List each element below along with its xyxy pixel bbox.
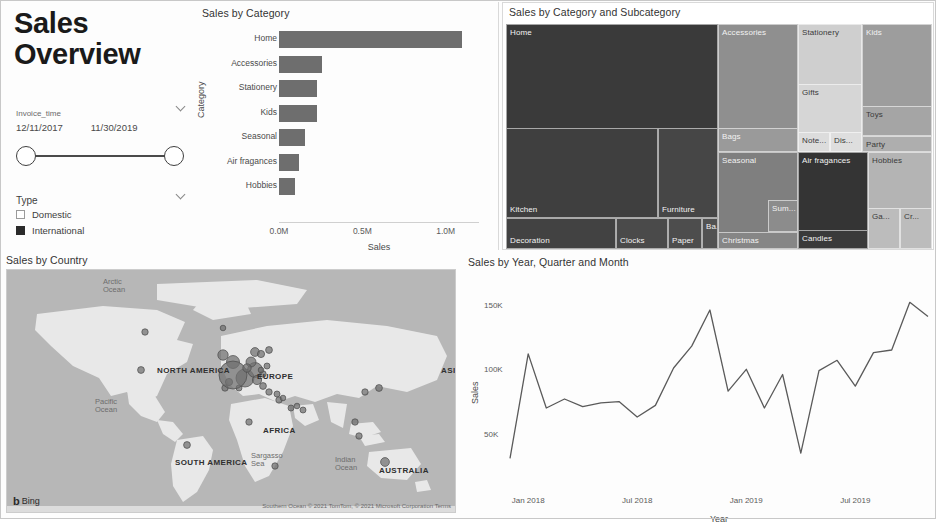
date-slider-handle-right[interactable]: [164, 146, 184, 166]
map-bubble[interactable]: [356, 433, 362, 439]
bar-row[interactable]: Hobbies: [198, 175, 498, 200]
type-option-label: International: [32, 225, 84, 236]
treemap-node[interactable]: Ga...: [868, 208, 900, 249]
bar-chart-plot: Category HomeAccessoriesStationeryKidsSe…: [198, 26, 498, 226]
map-viewport[interactable]: Arctic OceanNORTH AMERICAPacific OceanSa…: [6, 269, 456, 513]
date-start-value[interactable]: 12/11/2017: [16, 122, 88, 133]
map-attribution: Southern Ocean © 2021 TomTom, © 2021 Mic…: [262, 503, 451, 509]
bar-rect[interactable]: [279, 31, 462, 48]
treemap-node[interactable]: Note...: [798, 132, 830, 152]
bar-rect[interactable]: [279, 178, 295, 195]
map-bubble[interactable]: [266, 347, 273, 354]
treemap-node-label: Gifts: [802, 88, 819, 97]
line-y-tick: 50K: [484, 429, 498, 438]
type-slicer[interactable]: Type DomesticInternational: [16, 190, 188, 236]
bar-category-label: Accessories: [231, 58, 277, 68]
map-bubble[interactable]: [243, 364, 251, 372]
chevron-down-icon[interactable]: [177, 191, 186, 197]
bar-row[interactable]: Stationery: [198, 77, 498, 102]
map-bubble[interactable]: [280, 395, 286, 401]
map-bubble[interactable]: [300, 407, 306, 413]
map-bubble[interactable]: [288, 405, 294, 411]
map-bubble[interactable]: [381, 458, 390, 467]
treemap-node[interactable]: Bags: [718, 128, 798, 152]
map-bubble[interactable]: [257, 350, 264, 357]
map-bubble[interactable]: [352, 419, 358, 425]
treemap-node-label: Furniture: [662, 205, 695, 214]
treemap-node[interactable]: Sum...: [768, 200, 798, 232]
bar-row[interactable]: Air fragances: [198, 151, 498, 176]
date-slider-track[interactable]: [16, 144, 184, 168]
type-option-international[interactable]: International: [16, 225, 188, 236]
map-bubble[interactable]: [252, 375, 261, 384]
type-option-domestic[interactable]: Domestic: [16, 209, 188, 220]
map-bubble[interactable]: [258, 367, 264, 373]
treemap-node[interactable]: Party: [862, 136, 932, 152]
treemap-node-label: Ga...: [872, 212, 890, 221]
bar-row[interactable]: Accessories: [198, 53, 498, 78]
map-bubble[interactable]: [266, 389, 272, 395]
line-path: [510, 302, 928, 458]
map-bubble[interactable]: [138, 367, 145, 374]
treemap-node-label: Toys: [866, 110, 883, 119]
map-bubble[interactable]: [142, 329, 148, 335]
treemap-node[interactable]: Toys: [862, 106, 932, 136]
date-range-slicer[interactable]: Invoice_time 12/11/2017 11/30/2019: [16, 102, 188, 168]
treemap-node[interactable]: Furniture: [658, 128, 718, 218]
panel-divider-vertical: [498, 2, 499, 250]
treemap-node[interactable]: Christmas: [718, 232, 798, 249]
date-end-value[interactable]: 11/30/2019: [91, 122, 138, 133]
treemap-node-label: Home: [510, 28, 532, 37]
bar-rect[interactable]: [279, 80, 317, 97]
line-chart-title: Sales by Year, Quarter and Month: [468, 256, 629, 268]
bing-logo[interactable]: b Bing: [13, 495, 40, 507]
map-bubble[interactable]: [274, 391, 280, 397]
treemap-node[interactable]: Ba...: [702, 218, 718, 249]
bar-x-tick: 1.0M: [436, 226, 455, 236]
map-bubble[interactable]: [272, 463, 278, 469]
treemap-node-label: Note...: [802, 136, 826, 145]
treemap-node-label: Cr...: [904, 212, 919, 221]
bar-row[interactable]: Home: [198, 28, 498, 53]
line-y-axis-title: Sales: [470, 381, 480, 404]
treemap-node[interactable]: Kitchen: [506, 128, 658, 218]
map-bubble[interactable]: [246, 419, 252, 425]
treemap-node[interactable]: Decoration: [506, 218, 616, 249]
checkbox-icon[interactable]: [16, 210, 25, 219]
treemap-node-label: Hobbies: [872, 156, 902, 165]
map-bubble[interactable]: [184, 442, 191, 449]
treemap-node[interactable]: Paper: [668, 218, 702, 249]
type-option-list: DomesticInternational: [16, 209, 188, 236]
bar-rect[interactable]: [279, 105, 317, 122]
map-bubble[interactable]: [219, 361, 247, 389]
bar-row[interactable]: Seasonal: [198, 126, 498, 151]
map-bubble[interactable]: [220, 325, 226, 331]
treemap-node[interactable]: Clocks: [616, 218, 668, 249]
date-slider-line: [28, 155, 172, 157]
bar-row[interactable]: Kids: [198, 102, 498, 127]
date-slicer-field-label: Invoice_time: [16, 109, 61, 118]
checkbox-icon[interactable]: [16, 226, 25, 235]
map-bubble[interactable]: [294, 403, 300, 409]
map-bubble[interactable]: [260, 383, 267, 390]
map-bubble[interactable]: [264, 363, 270, 369]
map-bubble[interactable]: [362, 389, 368, 395]
date-slicer-header: Invoice_time: [16, 102, 188, 116]
bar-chart-title: Sales by Category: [202, 7, 290, 19]
bar-category-label: Seasonal: [242, 131, 277, 141]
map-bubble[interactable]: [376, 385, 383, 392]
treemap-node[interactable]: Candles: [798, 230, 868, 249]
treemap-node[interactable]: Cr...: [900, 208, 932, 249]
map-bubble[interactable]: [218, 350, 228, 360]
sales-by-country-map: Sales by Country: [2, 252, 460, 517]
type-slicer-label: Type: [16, 195, 38, 206]
line-x-tick: Jul 2018: [622, 496, 652, 505]
chevron-down-icon[interactable]: [177, 103, 186, 109]
type-option-label: Domestic: [32, 209, 72, 220]
treemap-node[interactable]: Dis...: [830, 132, 862, 152]
treemap-node-label: Kitchen: [510, 205, 537, 214]
bar-rect[interactable]: [279, 154, 299, 171]
bar-rect[interactable]: [279, 129, 305, 146]
date-slider-handle-left[interactable]: [16, 146, 36, 166]
bar-rect[interactable]: [279, 56, 322, 73]
